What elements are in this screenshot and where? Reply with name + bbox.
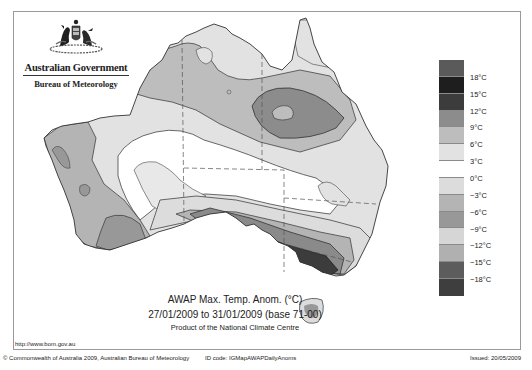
issued-date: Issued: 20/05/2009 [470, 355, 521, 361]
legend-label: −18°C [470, 275, 491, 284]
legend-box [439, 127, 464, 144]
bom-url-link[interactable]: http://www.bom.gov.au [15, 341, 75, 347]
legend-label: 6°C [470, 140, 483, 149]
legend-label: −3°C [470, 190, 487, 199]
map-period: 27/01/2009 to 31/01/2009 (base 71-00) [120, 309, 350, 320]
legend-label: 3°C [470, 157, 483, 166]
legend-box [439, 212, 464, 229]
legend-box [439, 94, 464, 111]
legend-box [439, 245, 464, 262]
legend-box [439, 279, 464, 296]
map-title: AWAP Max. Temp. Anom. (°C) [120, 294, 350, 305]
legend-label: 9°C [470, 123, 483, 132]
legend-box [439, 60, 464, 77]
legend-box [439, 178, 464, 195]
legend-box [439, 228, 464, 245]
copyright-text: © Commonwealth of Australia 2009, Austra… [3, 355, 189, 361]
legend-label: −9°C [470, 224, 487, 233]
legend-box [439, 262, 464, 279]
id-code: ID code: IGMapAWAPDailyAnoms [205, 355, 296, 361]
legend-label: 12°C [470, 106, 487, 115]
map-product: Product of the National Climate Centre [120, 323, 350, 332]
colour-legend [439, 60, 464, 296]
inland-lake [227, 90, 231, 94]
legend-box [439, 77, 464, 94]
legend-box [439, 111, 464, 128]
legend-label: −15°C [470, 258, 491, 267]
legend-label: −12°C [470, 241, 491, 250]
legend-box [439, 195, 464, 212]
legend-label: 15°C [470, 89, 487, 98]
legend-box [439, 161, 464, 178]
legend-label: 18°C [470, 72, 487, 81]
legend-label: 0°C [470, 173, 483, 182]
legend-label: −6°C [470, 207, 487, 216]
legend-box [439, 144, 464, 161]
